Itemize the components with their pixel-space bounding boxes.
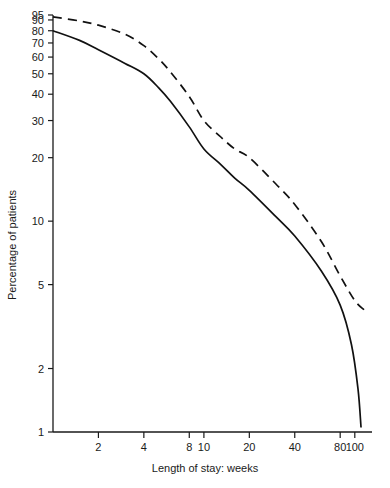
y-axis-tick-label: 5 (38, 279, 44, 291)
y-axis-tick-label: 80 (32, 25, 44, 37)
y-axis-tick-label: 60 (32, 51, 44, 63)
x-axis: 24810204080100 (53, 432, 372, 453)
y-axis-tick-label: 95 (32, 9, 44, 21)
y-axis: 12510203040506070809095 (32, 9, 53, 438)
y-axis-tick-label: 40 (32, 88, 44, 100)
y-axis-tick-label: 10 (32, 215, 44, 227)
y-axis-tick-label: 1 (38, 426, 44, 438)
x-axis-tick-label: 20 (243, 441, 255, 453)
x-axis-tick-label: 4 (141, 441, 147, 453)
data-series-group (53, 17, 364, 428)
x-axis-tick-label: 80 (334, 441, 346, 453)
y-axis-tick-label: 30 (32, 115, 44, 127)
x-axis-tick-label: 10 (198, 441, 210, 453)
y-axis-tick-label: 50 (32, 68, 44, 80)
chart-container: 12510203040506070809095 24810204080100 P… (0, 0, 390, 488)
y-axis-tick-label: 20 (32, 152, 44, 164)
x-axis-label: Length of stay: weeks (152, 462, 259, 474)
y-axis-tick-label: 70 (32, 37, 44, 49)
x-axis-tick-label: 8 (186, 441, 192, 453)
x-axis-tick-label: 40 (289, 441, 301, 453)
y-axis-tick-label: 2 (38, 363, 44, 375)
x-axis-tick-label: 2 (95, 441, 101, 453)
survival-curve-chart: 12510203040506070809095 24810204080100 P… (0, 0, 390, 488)
curve-lower-solid-curve (53, 31, 361, 428)
x-axis-tick-label: 100 (346, 441, 364, 453)
y-axis-label: Percentage of patients (6, 189, 18, 300)
